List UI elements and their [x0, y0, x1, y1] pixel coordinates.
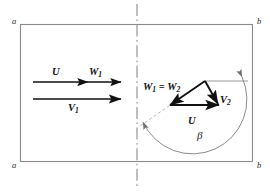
- label-w1-equals-w2-w2: W: [167, 81, 176, 92]
- label-v2-text: V: [220, 94, 227, 105]
- arrow-v2: [205, 81, 218, 104]
- label-beta-angle: β: [197, 130, 202, 141]
- label-v1-upstream-text: V: [68, 102, 75, 113]
- label-u-blade: U: [188, 116, 196, 127]
- label-v1-upstream-subscript: 1: [75, 106, 79, 115]
- label-v2: V2: [220, 95, 231, 107]
- label-w1-equals-w2-w1: W: [143, 81, 152, 92]
- label-w1-equals-w2-operator: =: [156, 81, 167, 92]
- label-v2-subscript: 2: [227, 98, 231, 107]
- label-u-upstream: U: [52, 67, 60, 78]
- corner-label-bottom-right: b: [257, 161, 261, 170]
- label-w1-equals-w2-sub2: 2: [177, 85, 181, 94]
- label-w1-upstream: W1: [89, 67, 102, 79]
- corner-label-top-left: a: [12, 17, 16, 26]
- label-w1-equals-w2: W1 = W2: [143, 82, 180, 94]
- label-v1-upstream: V1: [68, 103, 79, 115]
- corner-label-top-right: b: [257, 17, 261, 26]
- figure-canvas: a b a b U W1 V1 W1 = W2 V2 U β: [0, 0, 270, 193]
- corner-label-bottom-left: a: [12, 161, 16, 170]
- label-w1-upstream-subscript: 1: [98, 70, 102, 79]
- label-w1-upstream-text: W: [89, 66, 98, 77]
